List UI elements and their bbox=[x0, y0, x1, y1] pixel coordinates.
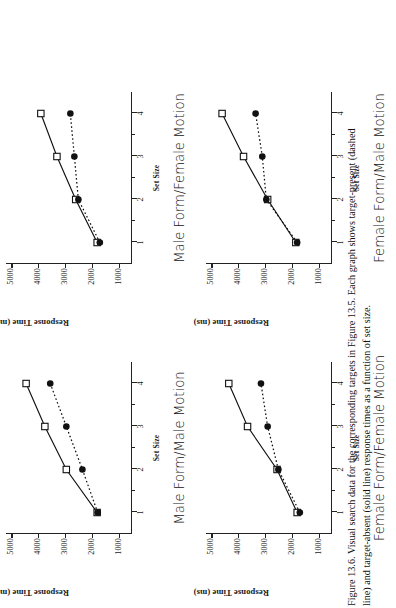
plot-area-3: 100020003000400050001234 bbox=[206, 92, 332, 264]
data-point-open-square bbox=[42, 423, 48, 429]
data-point-open-square bbox=[219, 110, 225, 116]
panel-grid: Response Time (ms) 100020003000400050001… bbox=[0, 68, 396, 608]
y-tick-label: 5000 bbox=[7, 268, 15, 285]
x-minor-tick bbox=[332, 220, 335, 221]
x-minor-tick bbox=[132, 490, 135, 491]
y-axis-title: Response Time (ms) bbox=[194, 318, 269, 328]
x-tick-label: 1 bbox=[137, 510, 145, 514]
x-tick-label: 3 bbox=[137, 424, 145, 428]
panel-title: Male Form/Male Motion bbox=[172, 371, 187, 524]
y-axis-title: Response Time (ms) bbox=[0, 318, 69, 328]
data-point-filled-circle bbox=[67, 110, 74, 117]
caption-line-0: Figure 13.6. Visual search data for the … bbox=[344, 72, 359, 606]
chart-panel-1: Response Time (ms) 100020003000400050001… bbox=[0, 68, 196, 336]
x-minor-tick bbox=[132, 177, 135, 178]
panel-title: Female Form/Male Motion bbox=[372, 93, 387, 263]
plot-area-1: 100020003000400050001234 bbox=[6, 92, 132, 264]
data-point-filled-circle bbox=[294, 239, 301, 246]
data-point-open-square bbox=[63, 466, 69, 472]
data-point-open-square bbox=[226, 380, 232, 386]
panel-title: Female Form/Female Motion bbox=[372, 355, 387, 541]
data-point-filled-circle bbox=[79, 466, 86, 473]
data-point-filled-circle bbox=[259, 153, 266, 160]
x-minor-tick bbox=[132, 404, 135, 405]
plot-area-2: 100020003000400050001234 bbox=[206, 362, 332, 534]
series-line-target-present bbox=[261, 384, 300, 513]
data-point-open-square bbox=[54, 153, 60, 159]
x-axis-title: Set Size bbox=[152, 165, 161, 192]
data-point-open-square bbox=[23, 380, 29, 386]
y-tick-label: 5000 bbox=[207, 268, 215, 285]
x-minor-tick bbox=[332, 177, 335, 178]
y-tick-label: 5000 bbox=[207, 538, 215, 555]
x-minor-tick bbox=[332, 404, 335, 405]
x-tick-label: 2 bbox=[137, 197, 145, 201]
x-minor-tick bbox=[332, 447, 335, 448]
y-tick-label: 1000 bbox=[114, 538, 122, 555]
data-point-filled-circle bbox=[63, 423, 70, 430]
y-tick-label: 3000 bbox=[261, 538, 269, 555]
chart-panel-0: Response Time (ms) 100020003000400050001… bbox=[0, 338, 196, 606]
y-tick-label: 2000 bbox=[88, 268, 96, 285]
data-point-filled-circle bbox=[252, 110, 259, 117]
y-tick-label: 4000 bbox=[34, 268, 42, 285]
y-tick-label: 3000 bbox=[61, 268, 69, 285]
series-line-target-present bbox=[70, 114, 99, 243]
y-tick-label: 3000 bbox=[61, 538, 69, 555]
series-line-target-present bbox=[256, 114, 298, 243]
plot-area-0: 100020003000400050001234 bbox=[6, 362, 132, 534]
data-point-filled-circle bbox=[263, 196, 270, 203]
data-series-group bbox=[6, 92, 132, 264]
y-tick-label: 4000 bbox=[234, 268, 242, 285]
series-line-target-present bbox=[50, 384, 97, 513]
y-tick-label: 5000 bbox=[7, 538, 15, 555]
y-tick-label: 1000 bbox=[114, 268, 122, 285]
data-series-group bbox=[206, 362, 332, 534]
y-tick-label: 2000 bbox=[288, 538, 296, 555]
data-point-filled-circle bbox=[94, 509, 101, 516]
figure-caption: Figure 13.6. Visual search data for the … bbox=[344, 72, 374, 606]
y-axis-title: Response Time (ms) bbox=[194, 588, 269, 598]
x-minor-tick bbox=[332, 134, 335, 135]
data-point-filled-circle bbox=[258, 380, 265, 387]
x-tick-label: 1 bbox=[137, 240, 145, 244]
x-minor-tick bbox=[132, 447, 135, 448]
series-line-target-absent bbox=[229, 384, 297, 513]
x-tick-label: 2 bbox=[137, 467, 145, 471]
series-line-target-absent bbox=[222, 114, 296, 243]
y-tick-label: 1000 bbox=[314, 268, 322, 285]
y-tick-label: 4000 bbox=[234, 538, 242, 555]
x-tick-label: 4 bbox=[137, 381, 145, 385]
y-tick-label: 2000 bbox=[288, 268, 296, 285]
y-tick-label: 1000 bbox=[314, 538, 322, 555]
figure-plate: Response Time (ms) 100020003000400050001… bbox=[0, 0, 396, 608]
data-point-open-square bbox=[240, 153, 246, 159]
series-line-target-absent bbox=[26, 384, 97, 513]
x-minor-tick bbox=[132, 220, 135, 221]
caption-line-1: line) and target-absent (solid line) res… bbox=[359, 72, 374, 606]
series-line-target-absent bbox=[41, 114, 97, 243]
x-tick-label: 4 bbox=[137, 111, 145, 115]
data-point-open-square bbox=[244, 423, 250, 429]
data-point-filled-circle bbox=[97, 239, 104, 246]
y-axis-title: Response Time (ms) bbox=[0, 588, 69, 598]
data-point-filled-circle bbox=[297, 509, 304, 516]
y-tick-label: 4000 bbox=[34, 538, 42, 555]
panel-title: Male Form/Female Motion bbox=[172, 93, 187, 263]
y-tick-label: 3000 bbox=[261, 268, 269, 285]
data-point-filled-circle bbox=[47, 380, 54, 387]
data-series-group bbox=[6, 362, 132, 534]
data-point-filled-circle bbox=[71, 153, 78, 160]
x-tick-label: 3 bbox=[137, 154, 145, 158]
data-point-open-square bbox=[38, 110, 44, 116]
data-point-filled-circle bbox=[275, 466, 282, 473]
x-minor-tick bbox=[132, 134, 135, 135]
x-axis-title: Set Size bbox=[152, 435, 161, 462]
data-point-filled-circle bbox=[264, 423, 271, 430]
y-tick-label: 2000 bbox=[88, 538, 96, 555]
figure-plate-wrapper: Response Time (ms) 100020003000400050001… bbox=[0, 0, 396, 608]
data-series-group bbox=[206, 92, 332, 264]
x-minor-tick bbox=[332, 490, 335, 491]
data-point-filled-circle bbox=[75, 196, 82, 203]
